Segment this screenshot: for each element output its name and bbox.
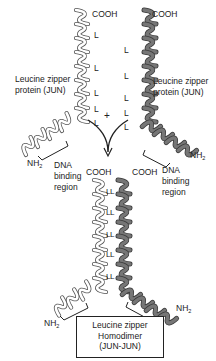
leucine-pair: LL: [106, 230, 114, 240]
top-right-nh2-label: NH2: [190, 150, 205, 163]
dimer-left-cooh-label: COOH: [86, 167, 112, 177]
leucine-mark: L: [124, 122, 129, 132]
top-left-nh2-label: NH2: [27, 158, 42, 171]
top-left-cooh-label: COOH: [92, 9, 118, 19]
top-left-dna-label-line2: binding: [54, 171, 81, 181]
leucine-mark: L: [94, 88, 99, 98]
homodimer-label-line1: Leucine zipper: [77, 320, 163, 331]
leucine-pair: LL: [106, 250, 114, 260]
leucine-pair: LL: [106, 208, 114, 218]
leucine-mark: L: [94, 63, 99, 73]
top-left-dna-bracket: [38, 141, 68, 160]
plus-sign: +: [104, 111, 110, 121]
top-right-cooh-label: COOH: [152, 9, 178, 19]
homodimer-label-line2: Homodimer: [77, 331, 163, 342]
dimer-right-nh2-label: NH2: [176, 303, 191, 316]
dimer-left-nh2-label: NH2: [44, 318, 59, 331]
leucine-mark: L: [124, 93, 129, 103]
homodimer-label-line3: (JUN-JUN): [77, 341, 163, 352]
top-left-dna-label-line3: region: [54, 182, 78, 192]
leucine-mark: L: [94, 104, 99, 114]
top-right-dna-label-line3: region: [162, 187, 186, 197]
leucine-mark: L: [124, 108, 129, 118]
top-right-protein-label-line1: Leucine zipper: [153, 76, 208, 86]
leucine-mark: L: [94, 30, 99, 40]
leucine-mark: L: [124, 45, 129, 55]
top-right-dna-label-line2: binding: [162, 176, 189, 186]
top-right-dna-label-line1: DNA: [162, 165, 180, 175]
dimer-left-helix: [51, 180, 106, 316]
leucine-pair: LL: [106, 187, 114, 197]
top-left-protein-label-line2: protein (JUN): [15, 85, 66, 95]
top-right-protein-label-line2: protein (JUN): [153, 87, 204, 97]
top-left-dna-label-line1: DNA: [54, 160, 72, 170]
dimer-right-cooh-label: COOH: [132, 167, 158, 177]
homodimer-label-box: Leucine zipper Homodimer (JUN-JUN): [76, 316, 164, 358]
leucine-mark: L: [94, 118, 99, 128]
leucine-pair: LL: [106, 272, 114, 282]
leucine-mark: L: [124, 71, 129, 81]
top-left-protein-label-line1: Leucine zipper: [15, 74, 70, 84]
